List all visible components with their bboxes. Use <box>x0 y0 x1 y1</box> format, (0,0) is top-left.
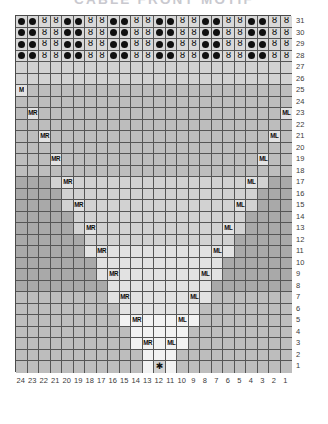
chart-cell[interactable] <box>246 292 258 304</box>
chart-cell[interactable] <box>108 177 120 189</box>
chart-cell[interactable] <box>28 269 40 281</box>
chart-cell[interactable] <box>108 39 120 51</box>
chart-cell[interactable] <box>189 304 201 316</box>
chart-cell[interactable] <box>166 327 178 339</box>
chart-cell[interactable] <box>269 281 281 293</box>
chart-cell[interactable] <box>177 177 189 189</box>
chart-cell[interactable] <box>28 74 40 86</box>
chart-cell[interactable] <box>189 200 201 212</box>
chart-cell[interactable] <box>281 189 293 201</box>
chart-cell[interactable] <box>74 131 86 143</box>
chart-cell[interactable] <box>62 143 74 155</box>
chart-cell[interactable]: MR <box>51 154 63 166</box>
chart-cell[interactable] <box>177 85 189 97</box>
chart-cell[interactable]: MR <box>131 315 143 327</box>
chart-cell[interactable] <box>62 292 74 304</box>
chart-cell[interactable] <box>235 304 247 316</box>
chart-cell[interactable] <box>97 74 109 86</box>
chart-cell[interactable] <box>212 315 224 327</box>
chart-cell[interactable] <box>200 292 212 304</box>
chart-cell[interactable] <box>131 292 143 304</box>
chart-cell[interactable] <box>166 177 178 189</box>
chart-cell[interactable] <box>235 223 247 235</box>
chart-cell[interactable] <box>246 269 258 281</box>
chart-cell[interactable] <box>62 338 74 350</box>
chart-cell[interactable] <box>189 131 201 143</box>
chart-cell[interactable] <box>51 315 63 327</box>
chart-cell[interactable] <box>235 281 247 293</box>
chart-cell[interactable] <box>258 235 270 247</box>
chart-cell[interactable]: ML <box>212 246 224 258</box>
chart-cell[interactable]: MR <box>62 177 74 189</box>
chart-cell[interactable] <box>108 143 120 155</box>
chart-cell[interactable] <box>177 246 189 258</box>
chart-cell[interactable] <box>200 212 212 224</box>
chart-cell[interactable] <box>189 246 201 258</box>
chart-cell[interactable] <box>39 154 51 166</box>
chart-cell[interactable] <box>189 85 201 97</box>
chart-cell[interactable] <box>154 120 166 132</box>
chart-cell[interactable] <box>235 338 247 350</box>
chart-cell[interactable] <box>235 166 247 178</box>
chart-cell[interactable] <box>200 189 212 201</box>
chart-cell[interactable] <box>74 97 86 109</box>
chart-cell[interactable] <box>223 85 235 97</box>
chart-cell[interactable] <box>97 62 109 74</box>
chart-cell[interactable] <box>269 361 281 373</box>
chart-cell[interactable] <box>108 154 120 166</box>
chart-cell[interactable] <box>281 143 293 155</box>
chart-cell[interactable]: ȣ <box>51 51 63 63</box>
chart-cell[interactable] <box>200 85 212 97</box>
chart-cell[interactable] <box>131 62 143 74</box>
chart-cell[interactable]: MR <box>85 223 97 235</box>
chart-cell[interactable] <box>62 304 74 316</box>
chart-cell[interactable] <box>120 62 132 74</box>
chart-cell[interactable] <box>131 246 143 258</box>
chart-cell[interactable] <box>74 154 86 166</box>
chart-cell[interactable] <box>62 281 74 293</box>
chart-cell[interactable] <box>108 108 120 120</box>
chart-cell[interactable] <box>120 16 132 28</box>
chart-cell[interactable] <box>154 189 166 201</box>
chart-cell[interactable] <box>258 39 270 51</box>
chart-cell[interactable] <box>62 258 74 270</box>
chart-cell[interactable] <box>143 292 155 304</box>
chart-cell[interactable] <box>200 258 212 270</box>
chart-cell[interactable] <box>28 361 40 373</box>
chart-cell[interactable] <box>74 120 86 132</box>
chart-cell[interactable] <box>223 62 235 74</box>
chart-cell[interactable]: ȣ <box>177 51 189 63</box>
chart-cell[interactable] <box>143 269 155 281</box>
chart-cell[interactable] <box>85 108 97 120</box>
chart-cell[interactable] <box>258 51 270 63</box>
chart-cell[interactable] <box>51 143 63 155</box>
chart-cell[interactable] <box>189 154 201 166</box>
chart-cell[interactable] <box>212 235 224 247</box>
chart-cell[interactable] <box>51 177 63 189</box>
chart-cell[interactable]: ✱ <box>154 361 166 373</box>
chart-cell[interactable] <box>189 327 201 339</box>
chart-cell[interactable] <box>85 235 97 247</box>
chart-cell[interactable] <box>154 62 166 74</box>
chart-cell[interactable] <box>85 315 97 327</box>
chart-cell[interactable] <box>74 166 86 178</box>
chart-cell[interactable] <box>246 154 258 166</box>
chart-cell[interactable] <box>16 108 28 120</box>
chart-cell[interactable] <box>258 269 270 281</box>
chart-cell[interactable] <box>269 200 281 212</box>
chart-cell[interactable] <box>269 97 281 109</box>
chart-cell[interactable]: ȣ <box>269 39 281 51</box>
chart-cell[interactable] <box>154 177 166 189</box>
chart-cell[interactable]: ML <box>246 177 258 189</box>
chart-cell[interactable] <box>281 315 293 327</box>
chart-cell[interactable]: ȣ <box>281 16 293 28</box>
chart-cell[interactable] <box>74 189 86 201</box>
chart-cell[interactable] <box>177 223 189 235</box>
chart-cell[interactable] <box>281 281 293 293</box>
chart-cell[interactable] <box>281 154 293 166</box>
chart-cell[interactable] <box>281 235 293 247</box>
chart-cell[interactable] <box>143 200 155 212</box>
chart-cell[interactable] <box>97 85 109 97</box>
chart-cell[interactable] <box>120 269 132 281</box>
chart-cell[interactable] <box>120 235 132 247</box>
